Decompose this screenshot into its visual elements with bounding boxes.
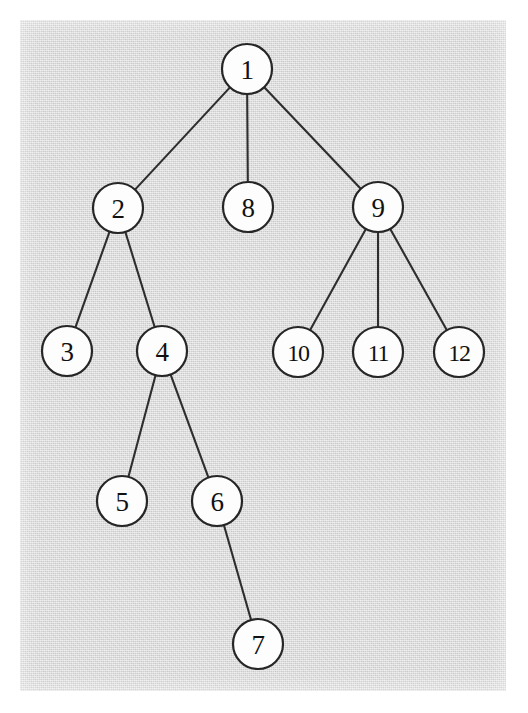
tree-node-label-4: 4 <box>156 337 170 367</box>
tree-node-10[interactable]: 10 <box>273 327 323 377</box>
tree-edge-6-7 <box>224 524 252 621</box>
tree-node-5[interactable]: 5 <box>97 476 147 526</box>
tree-graph: 128934101112567 <box>0 0 528 713</box>
tree-node-label-2: 2 <box>112 194 125 224</box>
tree-edge-2-3 <box>75 231 110 329</box>
tree-node-label-6: 6 <box>211 487 224 517</box>
tree-edge-1-2 <box>134 87 230 191</box>
tree-edge-1-9 <box>264 86 362 189</box>
tree-edge-1-8 <box>247 93 248 183</box>
tree-node-label-10: 10 <box>287 340 310 366</box>
tree-node-label-5: 5 <box>116 487 129 517</box>
tree-node-12[interactable]: 12 <box>434 327 484 377</box>
tree-edge-2-4 <box>125 231 155 328</box>
tree-edge-9-10 <box>310 228 367 331</box>
tree-node-label-8: 8 <box>242 193 255 223</box>
tree-node-label-7: 7 <box>252 630 265 660</box>
tree-node-9[interactable]: 9 <box>353 182 403 232</box>
tree-node-label-12: 12 <box>448 340 470 366</box>
tree-edge-9-12 <box>390 228 448 331</box>
tree-node-3[interactable]: 3 <box>42 326 92 376</box>
tree-node-4[interactable]: 4 <box>137 326 187 376</box>
tree-node-label-3: 3 <box>61 337 74 367</box>
diagram-canvas: 128934101112567 <box>0 0 528 713</box>
tree-node-label-11: 11 <box>368 340 389 366</box>
tree-edge-4-5 <box>128 374 156 478</box>
tree-node-label-9: 9 <box>372 193 385 223</box>
tree-node-1[interactable]: 1 <box>222 44 272 94</box>
tree-node-8[interactable]: 8 <box>223 182 273 232</box>
tree-node-label-1: 1 <box>241 55 254 85</box>
tree-node-2[interactable]: 2 <box>93 183 143 233</box>
tree-node-6[interactable]: 6 <box>192 476 242 526</box>
tree-edge-4-6 <box>170 374 208 479</box>
node-layer: 128934101112567 <box>42 44 484 669</box>
tree-node-11[interactable]: 11 <box>353 327 403 377</box>
tree-node-7[interactable]: 7 <box>233 619 283 669</box>
